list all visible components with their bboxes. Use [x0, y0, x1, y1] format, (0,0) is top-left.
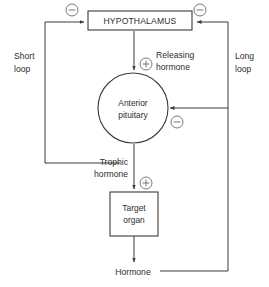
target-organ-label-line1: Target [122, 203, 146, 213]
trophic-hormone-label-line2: hormone [94, 169, 128, 179]
short-loop-label-line1: Short [14, 51, 35, 61]
sign-plus-releasing-hormone [140, 58, 152, 70]
trophic-hormone-label-line1: Trophic [100, 157, 129, 167]
diagram-canvas: HYPOTHALAMUS Anterior pituitary Target o… [0, 0, 269, 287]
long-loop-to-hypothalamus-line [197, 22, 228, 271]
target-organ-box [110, 192, 158, 236]
short-loop-label-line2: loop [14, 64, 30, 74]
anterior-pituitary-label-line1: Anterior [118, 98, 148, 108]
sign-plus-trophic-hormone [140, 177, 152, 189]
node-target-organ[interactable]: Target organ [110, 192, 158, 236]
target-organ-label-line2: organ [123, 215, 145, 225]
hormone-label: Hormone [115, 267, 151, 277]
node-anterior-pituitary[interactable]: Anterior pituitary [98, 73, 168, 143]
sign-minus-long-loop-hypothalamus [194, 4, 206, 16]
sign-minus-short-loop [66, 4, 78, 16]
endocrine-feedback-diagram: HYPOTHALAMUS Anterior pituitary Target o… [0, 0, 269, 287]
short-loop-line [45, 22, 84, 163]
anterior-pituitary-label-line2: pituitary [118, 110, 148, 120]
long-loop-label-line1: Long [235, 51, 254, 61]
releasing-hormone-label-line1: Releasing [156, 50, 194, 60]
hypothalamus-label: HYPOTHALAMUS [104, 16, 177, 26]
long-loop-label-line2: loop [235, 64, 251, 74]
node-hypothalamus[interactable]: HYPOTHALAMUS [88, 11, 192, 30]
anterior-pituitary-circle [98, 73, 168, 143]
releasing-hormone-label-line2: hormone [156, 62, 190, 72]
sign-minus-long-loop-pituitary [171, 116, 183, 128]
